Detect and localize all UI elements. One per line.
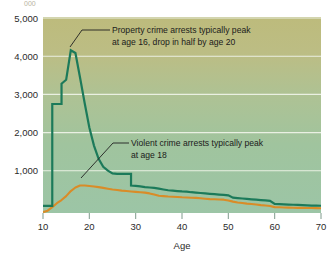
y-tick-1000: 1,000	[14, 165, 38, 176]
x-tick-label-60: 60	[269, 221, 280, 232]
violent-annotation-line2: at age 18	[131, 150, 167, 160]
x-tick-label-10: 10	[38, 221, 49, 232]
crime-arrests-by-age-chart: 000 5,000 4,000 3,000 2,000 1,000 10 20 …	[0, 0, 335, 258]
property-annotation-line2: at age 16, drop in half by age 20	[112, 37, 235, 47]
ghost-text-top: 000	[24, 0, 36, 7]
x-tick-label-30: 30	[130, 221, 141, 232]
y-tick-4000: 4,000	[14, 51, 38, 62]
x-tick-label-50: 50	[223, 221, 234, 232]
y-tick-5000: 5,000	[14, 13, 38, 24]
x-tick-label-70: 70	[316, 221, 327, 232]
y-tick-3000: 3,000	[14, 89, 38, 100]
property-annotation-line1: Property crime arrests typically peak	[112, 25, 251, 35]
x-tick-label-40: 40	[177, 221, 188, 232]
y-tick-2000: 2,000	[14, 127, 38, 138]
x-axis-title: Age	[174, 240, 191, 251]
x-tick-label-20: 20	[84, 221, 95, 232]
violent-annotation-line1: Violent crime arrests typically peak	[131, 138, 264, 148]
